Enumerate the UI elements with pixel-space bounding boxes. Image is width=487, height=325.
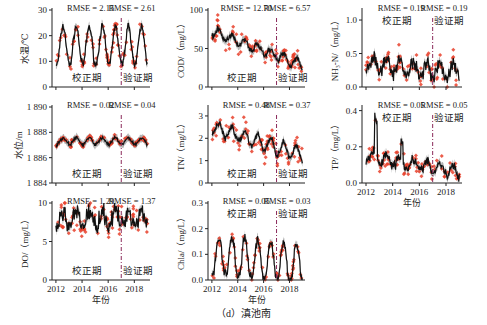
observed-point [274, 48, 278, 52]
x-tick-label: 2014 [229, 284, 248, 294]
validation-period-label: 验证期 [278, 208, 308, 219]
y-axis-label: DO/（mg/L） [20, 215, 30, 268]
observed-point [216, 13, 220, 17]
y-tick-label: 100 [190, 5, 204, 15]
observed-point [454, 78, 458, 82]
rmse-validation: RMSE = 0.05 [420, 100, 467, 110]
rmse-validation: RMSE = 0.37 [263, 100, 310, 110]
y-tick-label: 3 [199, 111, 204, 121]
observed-point [377, 78, 381, 82]
observed-point [107, 235, 111, 239]
y-axis-label: 水温/℃ [19, 33, 30, 64]
y-axis-label: TP/（mg/L） [330, 120, 340, 171]
x-axis-label: 年份 [403, 197, 421, 208]
validation-period-label: 验证期 [278, 72, 308, 83]
observed-point [296, 49, 300, 53]
observed-point [366, 55, 370, 59]
y-tick-label: 0.2 [192, 224, 203, 234]
observed-point [145, 230, 149, 234]
observed-point [135, 209, 139, 213]
observed-point [263, 60, 267, 64]
simulated-line [366, 51, 459, 83]
observed-point [270, 58, 274, 62]
rmse-calibration: RMSE = 1.29 [67, 196, 114, 206]
calibration-period-label: 校正期 [72, 265, 102, 276]
panel-do: 05102012201420162018年份DO/（mg/L）RMSE = 1.… [20, 196, 156, 305]
validation-period-label: 验证期 [123, 168, 153, 179]
calibration-period-label: 校正期 [72, 72, 102, 83]
rmse-validation: RMSE = 0.04 [108, 100, 156, 110]
panel-chla: 0.00.10.20.32012201420162018年份Chla/（mg/L… [176, 196, 311, 305]
observed-point [230, 232, 234, 236]
y-tick-label: 1.0 [346, 15, 358, 25]
y-axis-label: NH₃-N/（mg/L） [330, 16, 340, 82]
y-tick-label: 0.5 [346, 49, 358, 59]
validation-period-label: 验证期 [434, 15, 464, 26]
validation-period-label: 验证期 [123, 265, 153, 276]
y-tick-label: 0.1 [192, 249, 203, 259]
rmse-calibration: RMSE = 2.15 [67, 3, 114, 13]
observed-point [214, 134, 218, 138]
x-tick-label: 2018 [280, 284, 299, 294]
panel-nh3n: 0.00.51.0NH₃-N/（mg/L）RMSE = 0.19RMSE = 0… [330, 3, 468, 92]
observed-point [280, 59, 284, 63]
y-axis-label: TN/（mg/L） [176, 119, 186, 171]
observed-point [430, 177, 434, 181]
observed-point [300, 147, 304, 151]
x-tick-label: 2016 [255, 284, 274, 294]
observed-point [237, 148, 241, 152]
rmse-validation: RMSE = 2.61 [108, 3, 155, 13]
x-tick-label: 2012 [47, 284, 65, 294]
y-tick-label: 1 890 [27, 102, 48, 112]
x-tick-label: 2018 [125, 284, 144, 294]
y-axis-label: 水位/m [13, 131, 24, 159]
observed-point [250, 150, 254, 154]
rmse-calibration: RMSE = 0.19 [378, 3, 425, 13]
chart-grid: 0102030水温/℃RMSE = 2.15RMSE = 2.61校正期验证期1… [0, 0, 487, 325]
y-tick-label: 0 [199, 178, 204, 188]
rmse-calibration: RMSE = 0.05 [378, 100, 425, 110]
y-tick-label: 10 [38, 56, 48, 66]
rmse-validation: RMSE = 0.19 [420, 3, 467, 13]
simulated-line [56, 23, 147, 66]
y-axis-label: Chla/（mg/L） [176, 213, 186, 270]
y-tick-label: 1 886 [27, 153, 48, 163]
x-axis-label: 年份 [248, 294, 266, 305]
panel-cod: 050100COD/（mg/L）RMSE = 12.70RMSE = 6.57校… [176, 3, 311, 92]
panel-tn: 0123TN/（mg/L）RMSE = 0.48RMSE = 0.37校正期验证… [176, 100, 311, 188]
observed-point [231, 25, 235, 29]
observed-point [80, 234, 84, 238]
y-tick-label: 0.4 [346, 106, 358, 116]
y-tick-label: 0 [43, 82, 48, 92]
calibration-period-label: 校正期 [382, 15, 412, 26]
observed-point [59, 205, 63, 209]
observed-point [378, 170, 382, 174]
observed-point [405, 78, 409, 82]
y-tick-label: 50 [194, 44, 204, 54]
observed-point [293, 65, 297, 69]
observed-point [454, 83, 458, 87]
observed-point [72, 228, 76, 232]
observed-point [232, 139, 236, 143]
x-axis-label: 年份 [92, 294, 110, 305]
observed-point [264, 155, 268, 159]
y-tick-label: 0.0 [346, 178, 358, 188]
observed-point [131, 207, 135, 211]
observed-point [263, 162, 267, 166]
observed-point [397, 43, 401, 47]
figure-caption: （d）滇池南 [0, 305, 487, 320]
observed-point [130, 226, 134, 230]
y-tick-label: 10 [38, 198, 48, 208]
calibration-period-label: 校正期 [227, 168, 257, 179]
rmse-validation: RMSE = 0.03 [263, 196, 310, 206]
x-tick-label: 2014 [73, 284, 92, 294]
x-tick-label: 2014 [384, 187, 403, 197]
observed-point [75, 223, 79, 227]
y-tick-label: 2 [199, 133, 204, 143]
y-tick-label: 1 888 [27, 127, 48, 137]
observed-point [227, 42, 231, 46]
y-tick-label: 20 [38, 31, 48, 41]
rmse-validation: RMSE = 6.57 [263, 3, 310, 13]
y-tick-label: 0.2 [346, 142, 357, 152]
x-tick-label: 2012 [357, 187, 375, 197]
